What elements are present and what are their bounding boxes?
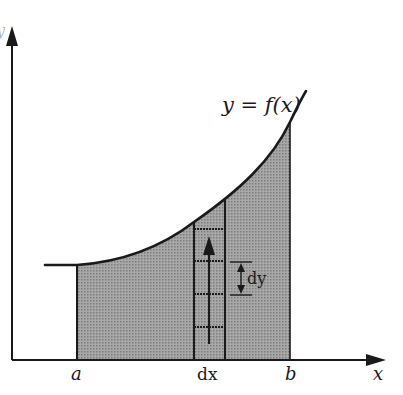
y-axis-label: y bbox=[0, 21, 6, 40]
curve-label: y = f(x) bbox=[221, 93, 301, 117]
x-axis-label: x bbox=[373, 363, 383, 384]
y-axis bbox=[6, 26, 18, 360]
shaded-area bbox=[77, 122, 290, 360]
area-under-curve-diagram: y = f(x) y x a b dx dy bbox=[0, 0, 403, 395]
lower-limit-label: a bbox=[71, 363, 82, 384]
y-axis-arrow-icon bbox=[6, 26, 18, 46]
dy-label: dy bbox=[247, 269, 266, 288]
upper-limit-label: b bbox=[285, 363, 297, 384]
dx-label: dx bbox=[197, 364, 218, 384]
